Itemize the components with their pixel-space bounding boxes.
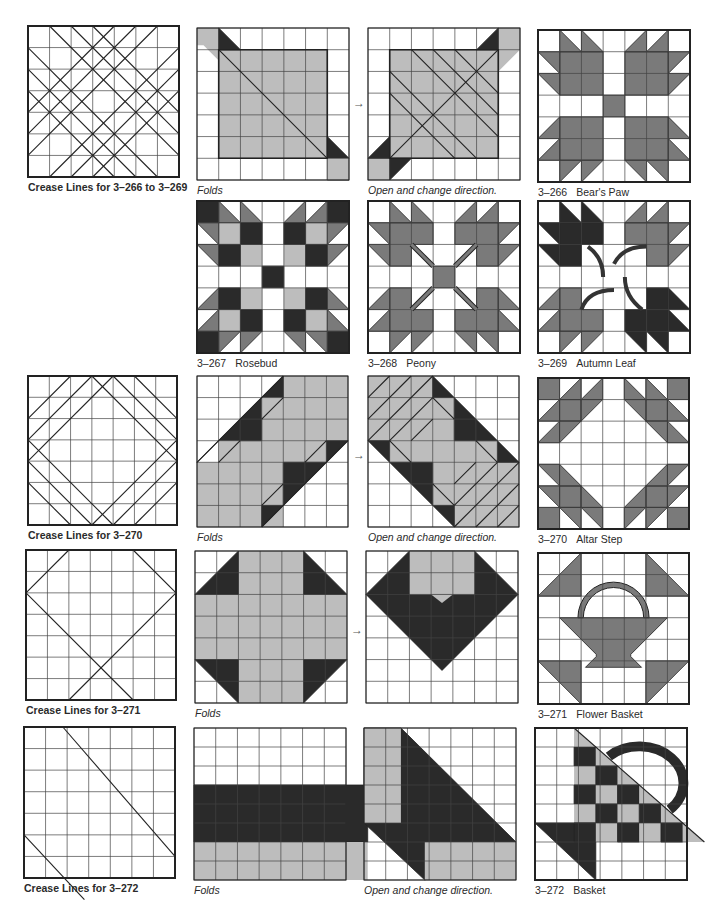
- basket-caption: 3–272Basket: [535, 884, 605, 896]
- caption-text: Open and change direction.: [364, 884, 493, 896]
- open-270-caption: Open and change direction.: [368, 531, 497, 543]
- folds-270-caption: Folds: [197, 531, 223, 543]
- altar-step-caption: 3–270Altar Step: [538, 533, 622, 545]
- crease-270-svg: [28, 376, 177, 525]
- caption-text: Bear's Paw: [576, 186, 629, 198]
- bears-paw-caption: 3–266Bear's Paw: [538, 186, 629, 198]
- folds-272-caption: Folds: [194, 884, 220, 896]
- flower-basket-caption: 3–271Flower Basket: [538, 708, 643, 720]
- crease-270-caption: Crease Lines for 3–270: [28, 529, 142, 541]
- diagram-open-270: Open and change direction.: [368, 376, 519, 527]
- caption-text: Altar Step: [576, 533, 622, 545]
- basket-svg: [535, 728, 687, 880]
- caption-text: Autumn Leaf: [576, 357, 636, 369]
- flower-basket-svg: [538, 553, 689, 704]
- open-271-svg: [366, 551, 518, 703]
- crease-271-svg: [26, 550, 176, 700]
- folds-270-svg: [197, 376, 348, 527]
- open-272-caption: Open and change direction.: [364, 884, 493, 896]
- rosebud-caption: 3–267Rosebud: [197, 357, 277, 369]
- arrow-right-icon: →: [353, 448, 365, 462]
- diagram-basket: 3–272Basket: [535, 728, 687, 880]
- pattern-number: 3–269: [538, 357, 567, 369]
- crease-272-svg: [24, 727, 175, 878]
- folds-271-caption: Folds: [195, 707, 221, 719]
- open-266-svg: [368, 28, 520, 180]
- open-270-svg: [368, 376, 519, 527]
- folds-271-svg: [195, 551, 347, 703]
- pattern-number: 3–271: [538, 708, 567, 720]
- caption-text: Peony: [406, 357, 436, 369]
- diagram-open-266: Open and change direction.: [368, 28, 520, 180]
- diagram-open-272: Open and change direction.: [364, 728, 516, 880]
- diagram-altar-step: 3–270Altar Step: [538, 378, 689, 529]
- diagram-crease-270: Crease Lines for 3–270: [28, 376, 177, 525]
- open-266-caption: Open and change direction.: [368, 184, 497, 196]
- pattern-number: 3–270: [538, 533, 567, 545]
- autumn-leaf-caption: 3–269Autumn Leaf: [538, 357, 636, 369]
- autumn-leaf-svg: [538, 201, 690, 353]
- diagram-peony: 3–268Peony: [368, 201, 520, 353]
- crease-266-269-caption: Crease Lines for 3–266 to 3–269: [28, 181, 187, 193]
- peony-svg: [368, 201, 520, 353]
- caption-text: Crease Lines for 3–266 to 3–269: [28, 181, 187, 193]
- diagram-autumn-leaf: 3–269Autumn Leaf: [538, 201, 690, 353]
- diagram-crease-271: Crease Lines for 3–271: [26, 550, 176, 700]
- crease-272-caption: Crease Lines for 3–272: [24, 882, 138, 894]
- caption-text: Open and change direction.: [368, 184, 497, 196]
- arrow-right-icon: →: [353, 96, 365, 110]
- caption-text: Flower Basket: [576, 708, 643, 720]
- diagram-bears-paw: 3–266Bear's Paw: [538, 30, 690, 182]
- caption-text: Folds: [197, 184, 223, 196]
- caption-text: Folds: [197, 531, 223, 543]
- diagram-crease-272: Crease Lines for 3–272: [24, 727, 175, 878]
- pattern-number: 3–272: [535, 884, 564, 896]
- pattern-number: 3–267: [197, 357, 226, 369]
- rosebud-svg: [197, 201, 349, 353]
- bears-paw-svg: [538, 30, 690, 182]
- diagram-open-271: [366, 551, 518, 703]
- altar-step-svg: [538, 378, 689, 529]
- diagram-flower-basket: 3–271Flower Basket: [538, 553, 689, 704]
- diagram-rosebud: 3–267Rosebud: [197, 201, 349, 353]
- caption-text: Basket: [573, 884, 605, 896]
- diagram-crease-266-269: Crease Lines for 3–266 to 3–269: [28, 26, 179, 177]
- pattern-number: 3–268: [368, 357, 397, 369]
- caption-text: Folds: [195, 707, 221, 719]
- diagram-folds-271: Folds: [195, 551, 347, 703]
- open-272-svg: [364, 728, 516, 880]
- crease-266-269-svg: [28, 26, 179, 177]
- diagram-folds-266: Folds: [197, 28, 349, 180]
- caption-text: Folds: [194, 884, 220, 896]
- diagram-folds-270: Folds: [197, 376, 348, 527]
- folds-266-svg: [197, 28, 349, 180]
- caption-text: Crease Lines for 3–271: [26, 704, 140, 716]
- caption-text: Rosebud: [235, 357, 277, 369]
- folds-266-caption: Folds: [197, 184, 223, 196]
- diagram-folds-272: Folds: [194, 728, 346, 880]
- caption-text: Crease Lines for 3–272: [24, 882, 138, 894]
- peony-caption: 3–268Peony: [368, 357, 436, 369]
- arrow-right-icon: →: [351, 623, 363, 637]
- folds-272-svg: [194, 728, 346, 880]
- crease-271-caption: Crease Lines for 3–271: [26, 704, 140, 716]
- pattern-number: 3–266: [538, 186, 567, 198]
- caption-text: Open and change direction.: [368, 531, 497, 543]
- caption-text: Crease Lines for 3–270: [28, 529, 142, 541]
